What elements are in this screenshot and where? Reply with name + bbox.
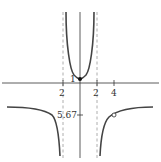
function-graph: 2 2 4 1 5.67 — [0, 0, 161, 162]
label-4: 4 — [111, 88, 117, 98]
label-y567: 5.67 — [57, 110, 77, 120]
label-neg2: 2 — [59, 88, 65, 98]
curve-right-branch — [100, 107, 153, 156]
minimum-point — [78, 77, 82, 81]
hole-point — [112, 113, 116, 117]
label-y1: 1 — [70, 74, 76, 84]
curve-left-branch — [7, 107, 60, 156]
label-2: 2 — [93, 88, 99, 98]
